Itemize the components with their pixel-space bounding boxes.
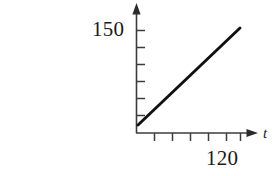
- x-axis-arrowhead: [247, 129, 259, 137]
- data-line-series-1: [138, 28, 240, 125]
- x-axis-ticks: [155, 133, 241, 141]
- y-axis-ticks: [137, 31, 146, 116]
- line-chart-figure: 150 120 t: [0, 0, 275, 176]
- y-axis-tick-label-150: 150: [92, 19, 124, 40]
- x-axis-name-label: t: [263, 126, 267, 141]
- x-axis-tick-label-120: 120: [206, 148, 238, 169]
- y-axis-arrowhead: [132, 3, 140, 15]
